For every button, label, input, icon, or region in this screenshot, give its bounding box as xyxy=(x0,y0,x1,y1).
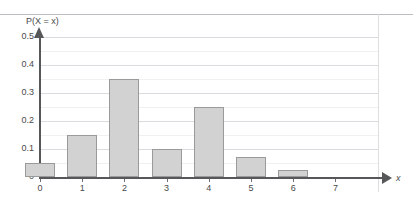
y-axis-line xyxy=(39,37,41,178)
plot-area: 00.10.20.30.40.5 P(X = x) x 01234567 xyxy=(0,0,413,205)
bar xyxy=(278,170,308,177)
y-axis-tick-label: 0.1 xyxy=(8,144,34,153)
chart-figure: 00.10.20.30.40.5 P(X = x) x 01234567 xyxy=(0,0,413,205)
bar xyxy=(67,135,97,177)
x-axis-line xyxy=(39,177,384,179)
x-axis-tick-label: 0 xyxy=(30,183,50,193)
x-axis-title: x xyxy=(396,173,401,183)
x-axis-tick-label: 4 xyxy=(199,183,219,193)
bar xyxy=(236,157,266,177)
x-axis-arrow-icon xyxy=(382,172,392,184)
x-axis-tick-label: 5 xyxy=(241,183,261,193)
y-axis-tick: 0.2 xyxy=(0,116,34,125)
y-axis-tick-label: 0.3 xyxy=(8,88,34,97)
y-axis-tick-label: 0.4 xyxy=(8,60,34,69)
gridline-minor xyxy=(40,51,378,52)
x-axis-tick xyxy=(335,179,336,182)
x-axis-tick xyxy=(82,179,83,182)
x-axis-tick-label: 7 xyxy=(325,183,345,193)
x-axis-tick-label: 2 xyxy=(114,183,134,193)
y-axis-tick-label: 0.2 xyxy=(8,116,34,125)
y-axis-tick: 0.3 xyxy=(0,88,34,97)
gridline-major xyxy=(40,65,378,66)
gridline-major xyxy=(40,37,378,38)
y-axis-title: P(X = x) xyxy=(26,16,59,26)
x-axis-tick-label: 1 xyxy=(72,183,92,193)
y-axis-tick: 0.5 xyxy=(0,32,34,41)
y-axis-arrow-icon xyxy=(34,27,44,38)
gridline-minor xyxy=(40,79,378,80)
x-axis-tick-label: 3 xyxy=(157,183,177,193)
gridline-major xyxy=(40,93,378,94)
x-axis-tick-label: 6 xyxy=(283,183,303,193)
bar xyxy=(194,107,224,177)
x-axis-tick xyxy=(251,179,252,182)
bar xyxy=(152,149,182,177)
x-axis-tick xyxy=(293,179,294,182)
bar xyxy=(25,163,55,177)
y-axis-tick: 0.4 xyxy=(0,60,34,69)
x-axis-tick xyxy=(167,179,168,182)
y-axis-tick: 0.1 xyxy=(0,144,34,153)
x-axis-tick xyxy=(40,179,41,182)
x-axis-tick xyxy=(124,179,125,182)
bar xyxy=(109,79,139,177)
x-axis-tick xyxy=(209,179,210,182)
y-axis-tick-label: 0.5 xyxy=(8,32,34,41)
